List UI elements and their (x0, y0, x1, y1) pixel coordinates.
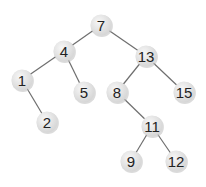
tree-node-7: 7 (91, 15, 113, 38)
node-label: 11 (144, 118, 160, 135)
node-label: 1 (18, 72, 26, 89)
tree-node-15: 15 (174, 82, 196, 105)
node-label: 9 (127, 153, 135, 170)
tree-node-13: 13 (136, 46, 158, 69)
tree-node-2: 2 (37, 112, 59, 135)
node-label: 7 (97, 17, 105, 34)
tree-node-9: 9 (121, 151, 143, 174)
tree-node-11: 11 (142, 116, 164, 139)
node-label: 13 (138, 48, 155, 65)
tree-node-5: 5 (74, 82, 96, 105)
tree-node-12: 12 (166, 151, 188, 174)
tree-node-8: 8 (107, 82, 129, 105)
node-label: 5 (80, 84, 88, 101)
edges-layer (22, 25, 184, 161)
node-label: 15 (176, 84, 193, 101)
node-label: 4 (60, 43, 68, 60)
node-label: 8 (113, 84, 121, 101)
node-label: 2 (43, 114, 51, 131)
tree-node-1: 1 (12, 70, 34, 93)
tree-node-4: 4 (54, 41, 76, 64)
node-label: 12 (168, 153, 185, 170)
binary-tree-diagram: 741315815211912 (0, 0, 206, 187)
